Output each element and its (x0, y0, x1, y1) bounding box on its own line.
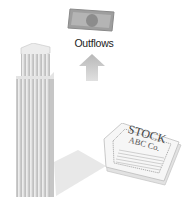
skyscraper-icon (14, 43, 56, 198)
banknote-icon (66, 6, 118, 34)
outflows-label: Outflows (70, 37, 118, 49)
up-arrow-icon (78, 54, 106, 84)
stock-certificate: STOCK ABC Co. (101, 123, 183, 189)
